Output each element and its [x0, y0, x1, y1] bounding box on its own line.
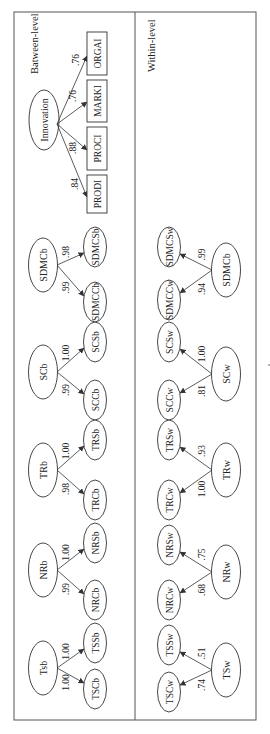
- innovation-latent-label: Innovation: [39, 98, 50, 141]
- loading-bottom: .68: [197, 584, 207, 596]
- indicator-top-label: NRSb: [91, 531, 101, 554]
- factor-trw: TRwTRSwTRCw.931.00: [158, 420, 241, 520]
- factor-sdmcb: SDMCbSDMCSwSDMCCw.99.94: [158, 227, 241, 320]
- loading-bottom: .94: [197, 283, 207, 295]
- factor-scb: SCbSCSbSCCb1.00.99: [29, 322, 107, 420]
- indicator-marki-label: MARKI: [93, 85, 103, 117]
- indicator-top-label: TSSw: [165, 633, 175, 656]
- indicator-top-label: SDMCSb: [91, 228, 101, 265]
- indicator-top-label: SDMCSw: [165, 227, 175, 266]
- factor-nrb: NRbNRSbNRCb1.00.99: [29, 523, 107, 620]
- loading-top: 1.00: [197, 345, 207, 362]
- latent-label: NRb: [38, 561, 49, 580]
- latent-label: TRw: [221, 459, 232, 480]
- between-level-label: Batween-level: [29, 13, 40, 74]
- indicator-bottom-label: TRCb: [91, 488, 101, 511]
- stray-dot: [268, 364, 270, 366]
- loading-top: 1.00: [61, 344, 71, 361]
- loading-top: .75: [197, 548, 207, 560]
- indicator-prodi-label: PRODI: [93, 180, 103, 209]
- factor-sdmcb: SDMCbSDMCSbSDMCCb.98.99: [29, 227, 107, 322]
- indicator-bottom-label: NRCb: [91, 588, 101, 613]
- loading-bottom: .81: [197, 385, 207, 397]
- latent-label: Tsb: [38, 661, 49, 675]
- indicator-bottom-label: SDMCCb: [91, 283, 101, 321]
- indicator-bottom-label: SCCb: [91, 388, 101, 411]
- latent-label: SCw: [221, 363, 232, 383]
- indicator-top-label: SCSw: [165, 330, 175, 354]
- indicator-top-label: TSSb: [91, 632, 101, 653]
- indicator-top-label: TRSb: [91, 429, 101, 451]
- loading-bottom: 1.00: [197, 480, 207, 497]
- loading-orgai: .76: [71, 54, 81, 66]
- latent-label: SDMCb: [38, 248, 49, 281]
- innovation-factor: Innovation ORGAI MARKI PROCI PRODI .76 .…: [29, 32, 107, 213]
- indicator-bottom-label: SCCw: [165, 387, 175, 412]
- factor-scw: SCwSCSwSCCw1.00.81: [158, 322, 241, 420]
- loading-proci: .88: [68, 142, 78, 154]
- within-level-factors: SDMCbSDMCSwSDMCCw.99.94SCwSCSwSCCw1.00.8…: [158, 227, 241, 712]
- indicator-top-label: NRSw: [165, 532, 175, 557]
- factor-nrw: NRwNRSwNRCw.75.68: [158, 525, 241, 620]
- indicator-proci-label: PROCI: [93, 135, 103, 163]
- loading-top: 1.00: [61, 544, 71, 561]
- within-level-label: Within-level: [146, 19, 157, 72]
- loading-top: 1.00: [61, 643, 71, 660]
- factor-tsb: TsbTSSbTSCb1.001.00: [29, 623, 107, 709]
- latent-label: NRw: [221, 561, 232, 583]
- latent-label: SDMCb: [221, 253, 232, 286]
- indicator-bottom-label: TSCw: [165, 680, 175, 704]
- latent-label: SCb: [38, 363, 49, 380]
- between-level-factors: SDMCbSDMCSbSDMCCb.98.99SCbSCSbSCCb1.00.9…: [29, 227, 107, 709]
- indicator-bottom-label: TSCb: [91, 678, 101, 700]
- indicator-bottom-label: NRCw: [165, 587, 175, 614]
- indicator-bottom-label: TRCw: [165, 487, 175, 512]
- loading-top: .93: [197, 445, 207, 457]
- latent-label: TSw: [221, 660, 232, 680]
- loading-top: .98: [61, 246, 71, 258]
- indicator-top-label: SCSb: [91, 331, 101, 353]
- indicator-orgai-label: ORGAI: [93, 38, 103, 68]
- loading-bottom: .74: [197, 679, 207, 691]
- loading-prodi: .84: [70, 178, 80, 190]
- latent-label: TRb: [38, 461, 49, 479]
- loading-bottom: 1.00: [61, 674, 71, 691]
- multilevel-sem-diagram: Batween-level Within-level Innovation OR…: [0, 0, 270, 734]
- factor-trb: TRbTRSbTRCb1.00.98: [29, 420, 107, 520]
- loading-bottom: .99: [61, 384, 71, 396]
- indicator-bottom-label: SDMCCw: [165, 280, 175, 320]
- loading-bottom: .99: [61, 583, 71, 595]
- loading-marki: .76: [68, 90, 78, 102]
- loading-top: 1.00: [61, 442, 71, 459]
- factor-tsw: TSwTSSwTSCw.51.74: [158, 625, 241, 712]
- indicator-top-label: TRSw: [165, 428, 175, 452]
- loading-bottom: .99: [61, 281, 71, 293]
- loading-bottom: .98: [61, 483, 71, 495]
- loading-top: .99: [197, 248, 207, 260]
- loading-top: .51: [197, 647, 207, 659]
